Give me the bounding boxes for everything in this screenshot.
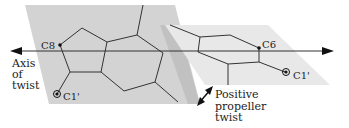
label-c8: C8 <box>41 40 55 51</box>
axis-arrow-right-icon <box>322 47 334 55</box>
label-c1-left: C1' <box>63 91 80 102</box>
twist-label-line3: twist <box>215 111 243 124</box>
axis-arrow-left-icon <box>10 47 22 55</box>
axis-label-line3: twist <box>12 79 40 92</box>
label-c6: C6 <box>262 39 276 50</box>
c1-left-dot <box>55 92 58 95</box>
label-c1-right: C1' <box>293 70 310 81</box>
c6-atom-dot <box>257 46 261 50</box>
c1-right-dot <box>284 70 287 73</box>
propeller-twist-diagram: C8 C6 C1' C1' Axis of twist Positive pro… <box>0 0 349 128</box>
c8-atom-dot <box>58 43 62 47</box>
